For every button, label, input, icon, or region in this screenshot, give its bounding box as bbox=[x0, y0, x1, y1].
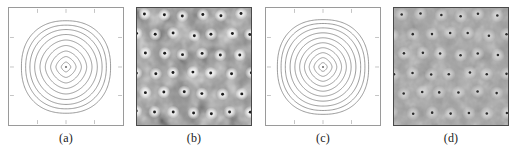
peak-dot bbox=[231, 32, 234, 35]
peak-dot bbox=[505, 33, 508, 36]
peak-dot bbox=[238, 53, 241, 56]
peak-dot bbox=[411, 72, 414, 75]
peak-dot bbox=[497, 54, 500, 57]
peak-dot bbox=[439, 52, 442, 55]
peak-dot bbox=[219, 14, 222, 17]
panel-a-contour-plot bbox=[8, 7, 124, 126]
peak-dot bbox=[172, 71, 175, 74]
peak-dot bbox=[200, 92, 203, 95]
peak-dot bbox=[230, 72, 233, 75]
peak-dot bbox=[154, 33, 157, 36]
peak-dot bbox=[172, 32, 175, 35]
peak-dot bbox=[476, 90, 479, 93]
peak-dot bbox=[430, 73, 433, 76]
peak-dot bbox=[228, 110, 231, 113]
panel-b-svg bbox=[137, 8, 251, 125]
peak-dot bbox=[449, 32, 452, 35]
peak-dot bbox=[219, 54, 222, 57]
peak-dot bbox=[209, 72, 212, 75]
peak-dot bbox=[144, 91, 147, 94]
peak-dot bbox=[181, 14, 184, 17]
peak-dot bbox=[240, 92, 243, 95]
panel-c-contour-plot bbox=[265, 7, 381, 126]
peak-dot bbox=[240, 12, 243, 15]
peak-dot bbox=[143, 13, 146, 16]
peak-dot bbox=[144, 52, 147, 55]
peak-dot bbox=[422, 52, 425, 55]
peak-dot bbox=[191, 71, 194, 74]
panel-a-caption: (a) bbox=[8, 130, 124, 146]
peak-dot bbox=[163, 52, 166, 55]
peak-dot bbox=[402, 92, 405, 95]
peak-dot bbox=[209, 33, 212, 36]
peak-dot bbox=[183, 90, 186, 93]
panel-a-svg bbox=[9, 8, 123, 125]
panel-c-svg bbox=[266, 8, 380, 125]
peak-dot bbox=[469, 71, 472, 74]
peak-dot bbox=[221, 93, 224, 96]
peak-dot bbox=[419, 12, 422, 15]
peak-dot bbox=[411, 33, 414, 36]
panel-d-grayscale-image bbox=[393, 7, 509, 126]
peak-dot bbox=[476, 52, 479, 55]
panel-d-caption: (d) bbox=[393, 130, 509, 146]
peak-dot bbox=[210, 112, 213, 115]
panel-d-svg bbox=[394, 8, 508, 125]
peak-dot bbox=[403, 52, 406, 55]
peak-dot bbox=[421, 91, 424, 94]
peak-dot bbox=[505, 73, 508, 76]
peak-dot bbox=[466, 32, 469, 35]
peak-dot bbox=[440, 14, 443, 17]
peak-dot bbox=[201, 13, 204, 16]
panel-c-center-marker bbox=[322, 66, 324, 68]
peak-dot bbox=[201, 52, 204, 55]
panel-b-grayscale-image bbox=[136, 7, 252, 126]
panel-c-caption: (c) bbox=[265, 130, 381, 146]
peak-dot bbox=[192, 112, 195, 115]
peak-dot bbox=[172, 111, 175, 114]
peak-dot bbox=[193, 34, 196, 37]
peak-dot bbox=[431, 33, 434, 36]
peak-dot bbox=[412, 112, 415, 115]
peak-dot bbox=[459, 54, 462, 57]
peak-dot bbox=[486, 112, 489, 115]
panel-a-center-marker bbox=[65, 66, 67, 68]
peak-dot bbox=[495, 92, 498, 95]
peak-dot bbox=[181, 53, 184, 56]
peak-dot bbox=[431, 111, 434, 114]
peak-dot bbox=[485, 73, 488, 76]
figure-container: (a) bbox=[0, 0, 525, 154]
peak-dot bbox=[162, 91, 165, 94]
peak-dot bbox=[459, 15, 462, 18]
peak-dot bbox=[163, 13, 166, 16]
peak-dot bbox=[154, 72, 157, 75]
peak-dot bbox=[448, 73, 451, 76]
peak-dot bbox=[488, 34, 491, 37]
peak-dot bbox=[477, 13, 480, 16]
peak-dot bbox=[457, 91, 460, 94]
peak-dot bbox=[400, 13, 403, 16]
peak-dot bbox=[438, 91, 441, 94]
peak-dot bbox=[449, 112, 452, 115]
peak-dot bbox=[153, 110, 156, 113]
peak-dot bbox=[468, 112, 471, 115]
peak-dot bbox=[496, 14, 499, 17]
panel-b-caption: (b) bbox=[136, 130, 252, 146]
